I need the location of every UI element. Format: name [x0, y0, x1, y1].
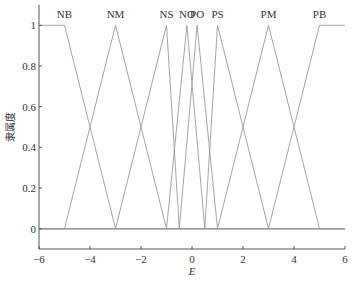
y-tick-label: 0.6 [22, 101, 36, 113]
mf-label-ns: NS [159, 8, 173, 20]
mf-curve-nb [39, 25, 345, 228]
y-tick-label: 0.8 [22, 60, 36, 72]
membership-curves [39, 25, 345, 228]
x-tick-label: 0 [189, 253, 195, 265]
x-tick-label: 2 [240, 253, 246, 265]
x-axis-label: E [188, 265, 196, 277]
mf-curve-no [39, 25, 345, 228]
x-tick-label: 4 [291, 253, 297, 265]
mf-label-pm: PM [261, 8, 277, 20]
y-tick-label: 0 [31, 223, 37, 235]
y-axis-label: 隶属度 [4, 112, 16, 142]
mf-label-po: PO [190, 8, 204, 20]
mf-curve-pm [39, 25, 345, 228]
mf-label-ps: PS [211, 8, 223, 20]
x-tick-label: −6 [33, 253, 45, 265]
mf-label-nm: NM [107, 8, 125, 20]
y-tick-label: 0.4 [22, 141, 36, 153]
y-tick-label: 1 [31, 19, 37, 31]
membership-function-chart: NBNMNSNOPOPSPMPB −6−4−20246 00.20.40.60.… [0, 0, 353, 284]
mf-label-nb: NB [57, 8, 72, 20]
mf-curve-nm [39, 25, 345, 228]
x-tick-label: −2 [135, 253, 147, 265]
mf-curve-pb [39, 25, 345, 228]
mf-label-pb: PB [313, 8, 326, 20]
x-tick-label: −4 [84, 253, 96, 265]
x-tick-label: 6 [342, 253, 348, 265]
mf-curve-po [39, 25, 345, 228]
mf-curve-ps [39, 25, 345, 228]
y-tick-label: 0.2 [22, 182, 36, 194]
mf-curve-ns [39, 25, 345, 228]
membership-labels: NBNMNSNOPOPSPMPB [57, 8, 326, 20]
